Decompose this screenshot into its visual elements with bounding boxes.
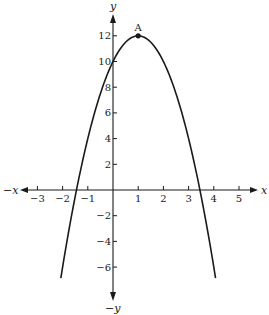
y-tick-label: 2 xyxy=(105,159,111,170)
parabola-chart: −xxy−y−3−2−11234512108642−2−4−6A xyxy=(0,0,269,315)
vertex-point-label: A xyxy=(134,22,143,33)
y-tick-label: −2 xyxy=(96,210,111,221)
x-tick-label: 1 xyxy=(135,193,141,204)
y-tick-label: 10 xyxy=(98,56,111,67)
x-tick-label: −2 xyxy=(55,193,70,204)
x-tick-label: 2 xyxy=(160,193,166,204)
x-tick-label: 3 xyxy=(185,193,191,204)
y-axis-pos-arrow-icon xyxy=(110,14,116,23)
y-tick-label: 8 xyxy=(105,82,111,93)
x-axis-pos-arrow-icon xyxy=(250,187,258,193)
y-tick-label: −6 xyxy=(96,262,111,273)
y-tick-label: 12 xyxy=(98,30,111,41)
y-axis-neg-arrow-icon xyxy=(110,292,116,301)
x-tick-label: 4 xyxy=(211,193,217,204)
x-tick-label: −1 xyxy=(80,193,95,204)
vertex-point-marker xyxy=(136,33,141,38)
y-tick-label: 6 xyxy=(105,107,111,118)
y-axis-neg-label: −y xyxy=(105,302,121,315)
y-axis-pos-label: y xyxy=(109,0,117,13)
y-tick-label: −4 xyxy=(96,236,111,247)
parabola-curve xyxy=(61,36,216,278)
y-tick-label: 4 xyxy=(105,133,111,144)
x-axis-pos-label: x xyxy=(261,184,268,197)
x-axis-neg-arrow-icon xyxy=(20,187,28,193)
x-tick-label: 5 xyxy=(236,193,242,204)
x-tick-label: −3 xyxy=(30,193,45,204)
x-axis-neg-label: −x xyxy=(3,184,19,197)
